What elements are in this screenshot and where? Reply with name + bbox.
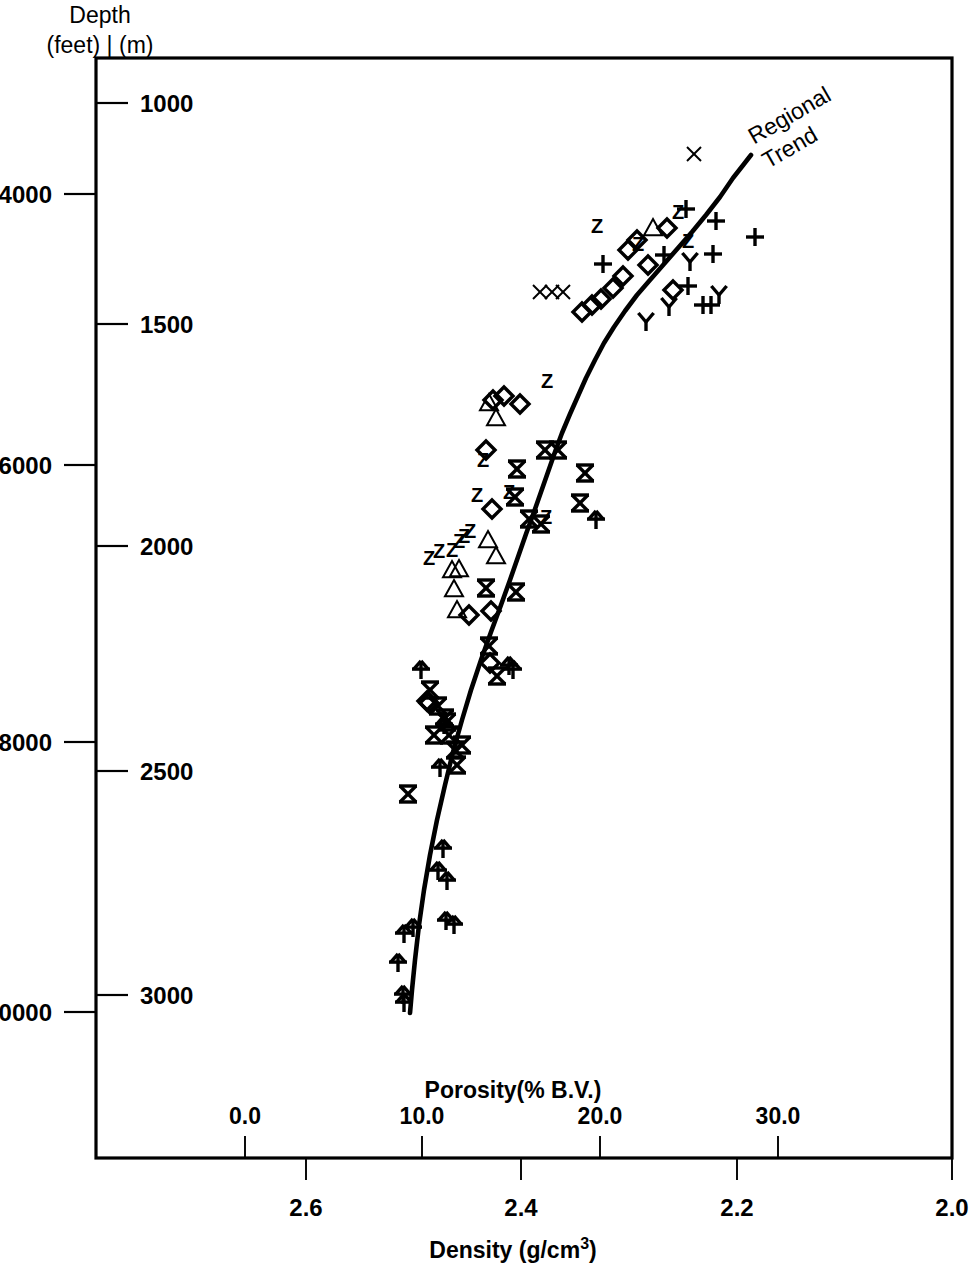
data-point-arrow-up (438, 872, 456, 890)
data-point-triangle (445, 580, 463, 596)
tick-density-2.0: 2.0 (935, 1158, 968, 1221)
tick-label-feet: 4000 (0, 181, 52, 208)
tick-meters-1500: 1500 (96, 311, 193, 338)
svg-text:Z: Z (471, 484, 483, 506)
tick-label-feet: 8000 (0, 729, 52, 756)
tick-feet-8000: 8000 (0, 729, 96, 756)
tick-density-2.2: 2.2 (720, 1158, 753, 1221)
data-point-triangle (443, 561, 461, 577)
data-point-x-bold (576, 465, 594, 481)
data-point-y (638, 313, 653, 331)
svg-text:Z: Z (672, 201, 684, 223)
data-point-arrow-up (587, 511, 605, 529)
tick-label-porosity: 20.0 (578, 1103, 623, 1129)
svg-text:Z: Z (446, 539, 458, 561)
data-point-y (661, 298, 676, 316)
svg-text:Z: Z (541, 370, 553, 392)
figure-container: Depth (feet) | (m) 40006000800010000 100… (0, 0, 978, 1272)
data-point-y (682, 253, 697, 271)
tick-label-meters: 1500 (140, 311, 193, 338)
tick-label-porosity: 0.0 (229, 1103, 261, 1129)
tick-density-2.4: 2.4 (504, 1158, 538, 1221)
porosity-axis-title: Porosity(% B.V.) (425, 1077, 602, 1103)
data-point-triangle (448, 601, 466, 617)
data-point-plus (594, 255, 612, 273)
data-point-plus (704, 245, 722, 263)
svg-text:Z: Z (503, 481, 515, 503)
tick-label-meters: 3000 (140, 982, 193, 1009)
tick-meters-2000: 2000 (96, 533, 193, 560)
tick-label-porosity: 30.0 (756, 1103, 801, 1129)
data-point-plus (746, 228, 764, 246)
data-point-z: Z (541, 370, 553, 392)
series-arrow-up (389, 511, 605, 1012)
data-point-z: Z (433, 540, 445, 562)
svg-text:Z: Z (540, 506, 552, 528)
density-axis-title-close: ) (589, 1237, 597, 1263)
density-axis-title-superscript: 3 (580, 1235, 589, 1252)
data-point-plus (707, 212, 725, 230)
tick-porosity-30.0: 30.0 (756, 1103, 801, 1158)
data-point-x-bold (477, 580, 495, 596)
data-point-triangle (479, 531, 497, 547)
data-point-x-bold (508, 461, 526, 477)
depth-porosity-density-crossplot: Depth (feet) | (m) 40006000800010000 100… (0, 0, 978, 1272)
data-point-y (711, 286, 726, 304)
series-y (638, 253, 726, 331)
data-point-x-bold (571, 495, 589, 511)
data-point-z: Z (464, 520, 476, 542)
svg-text:Z: Z (464, 520, 476, 542)
density-axis-title-main: Density (g/cm (429, 1237, 580, 1263)
regional-trend-annotation: Regional Trend (744, 81, 850, 173)
regional-trend-line (410, 155, 751, 1013)
data-point-arrow-up (434, 840, 452, 858)
tick-porosity-20.0: 20.0 (578, 1103, 623, 1158)
data-point-diamond (483, 500, 501, 518)
tick-label-meters: 1000 (140, 90, 193, 117)
tick-label-meters: 2500 (140, 758, 193, 785)
data-point-z: Z (503, 481, 515, 503)
density-axis: 2.62.42.22.0 (289, 1158, 968, 1221)
depth-header-line2: (feet) | (m) (47, 32, 154, 58)
svg-text:Z: Z (433, 540, 445, 562)
tick-meters-2500: 2500 (96, 758, 193, 785)
data-point-z: Z (446, 539, 458, 561)
data-point-arrow-up (412, 661, 430, 679)
tick-label-density: 2.4 (504, 1194, 538, 1221)
depth-meters-axis: 10001500200025003000 (96, 90, 193, 1009)
tick-label-density: 2.6 (289, 1194, 322, 1221)
data-point-triangle (487, 547, 505, 563)
tick-meters-3000: 3000 (96, 982, 193, 1009)
tick-feet-4000: 4000 (0, 181, 96, 208)
data-point-z: Z (591, 215, 603, 237)
plot-frame (96, 58, 952, 1158)
tick-porosity-0.0: 0.0 (229, 1103, 261, 1158)
series-z: ZZZZZZZZZZZZZZZ (423, 201, 694, 569)
tick-feet-10000: 10000 (0, 999, 96, 1026)
tick-label-density: 2.2 (720, 1194, 753, 1221)
tick-label-feet: 10000 (0, 999, 52, 1026)
porosity-axis: 0.010.020.030.0 (229, 1103, 800, 1158)
depth-feet-axis: 40006000800010000 (0, 181, 96, 1026)
tick-label-porosity: 10.0 (400, 1103, 445, 1129)
data-point-x-thin (556, 285, 570, 299)
svg-text:Z: Z (591, 215, 603, 237)
tick-label-density: 2.0 (935, 1194, 968, 1221)
data-point-diamond (664, 281, 682, 299)
data-point-triangle (487, 409, 505, 425)
data-point-z: Z (672, 201, 684, 223)
density-axis-title: Density (g/cm3) (429, 1235, 596, 1263)
data-point-z: Z (471, 484, 483, 506)
data-point-x-thin (687, 147, 701, 161)
scatter-markers: ZZZZZZZZZZZZZZZ (389, 147, 764, 1012)
depth-header-line1: Depth (69, 2, 130, 28)
data-point-diamond (639, 256, 657, 274)
tick-porosity-10.0: 10.0 (400, 1103, 445, 1158)
tick-label-feet: 6000 (0, 452, 52, 479)
tick-meters-1000: 1000 (96, 90, 193, 117)
tick-density-2.6: 2.6 (289, 1158, 322, 1221)
tick-feet-6000: 6000 (0, 452, 96, 479)
data-point-arrow-up (389, 954, 407, 972)
data-point-z: Z (540, 506, 552, 528)
tick-label-meters: 2000 (140, 533, 193, 560)
